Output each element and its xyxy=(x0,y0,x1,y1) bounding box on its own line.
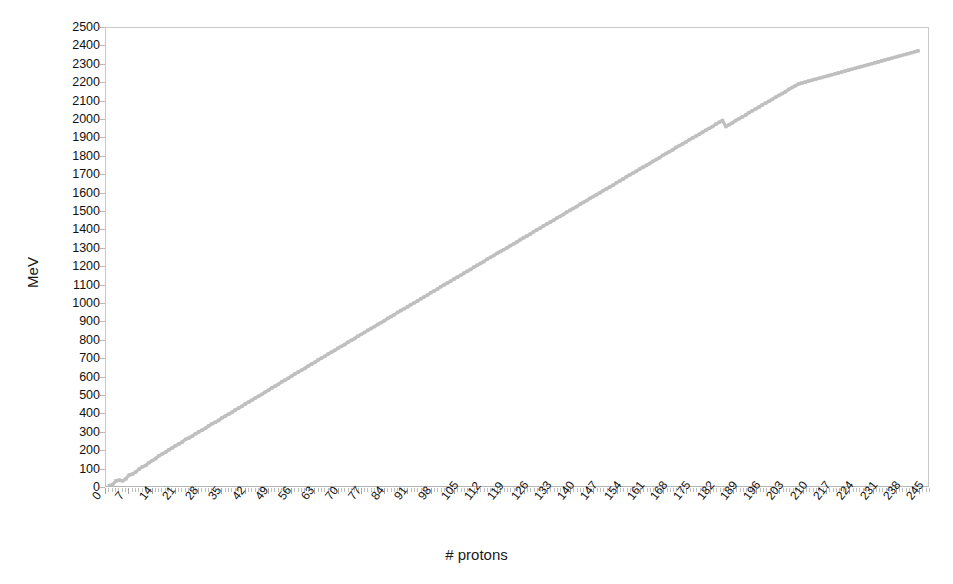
x-axis-tick-label: 70 xyxy=(322,483,341,502)
x-axis-tick-label: 231 xyxy=(857,478,880,502)
x-axis-tick-label: 210 xyxy=(787,478,810,502)
x-axis-tick-label: 238 xyxy=(880,478,903,502)
x-axis-tick-label: 49 xyxy=(252,483,271,502)
x-axis-tick-label: 56 xyxy=(275,483,294,502)
x-axis-tick-label: 112 xyxy=(461,479,484,503)
x-axis-tick-label: 63 xyxy=(298,483,317,502)
x-axis-tick-label: 0 xyxy=(89,489,104,503)
x-axis-tick-label: 42 xyxy=(229,483,248,502)
x-axis-tick-label: 105 xyxy=(438,478,461,502)
chart-container: MeV 250024002300220021002000190018001700… xyxy=(0,0,953,584)
x-axis-tick-label: 224 xyxy=(833,478,856,502)
x-axis-tick-label: 84 xyxy=(368,483,387,502)
x-axis-tick-labels: 0714212835424956637077849198105112119126… xyxy=(0,0,953,584)
x-axis-tick-label: 91 xyxy=(391,483,410,502)
x-axis-tick-label: 161 xyxy=(624,478,647,502)
x-axis-tick-label: 175 xyxy=(670,478,693,502)
x-axis-tick-label: 245 xyxy=(903,478,926,502)
x-axis-tick-label: 203 xyxy=(763,478,786,502)
x-axis-tick-label: 126 xyxy=(508,478,531,502)
x-axis-tick-label: 189 xyxy=(717,478,740,502)
x-axis-tick-label: 98 xyxy=(415,483,434,502)
x-axis-tick-label: 77 xyxy=(345,483,364,502)
x-axis-tick-label: 21 xyxy=(159,483,178,502)
x-axis-tick-label: 182 xyxy=(694,478,717,502)
x-axis-tick-label: 28 xyxy=(182,483,201,502)
x-axis-tick-label: 140 xyxy=(554,478,577,502)
x-axis-tick-label: 217 xyxy=(810,478,833,502)
x-axis-tick-label: 168 xyxy=(647,478,670,502)
x-axis-tick-label: 133 xyxy=(531,478,554,502)
x-axis-title: # protons xyxy=(0,546,953,563)
x-axis-tick-label: 7 xyxy=(112,489,127,503)
x-axis-tick-label: 35 xyxy=(205,483,224,502)
x-axis-tick-label: 119 xyxy=(484,479,507,503)
x-axis-tick-label: 154 xyxy=(601,478,624,502)
x-axis-tick-label: 14 xyxy=(136,483,155,502)
x-axis-tick-label: 147 xyxy=(577,478,600,502)
x-axis-tick-label: 196 xyxy=(740,478,763,502)
